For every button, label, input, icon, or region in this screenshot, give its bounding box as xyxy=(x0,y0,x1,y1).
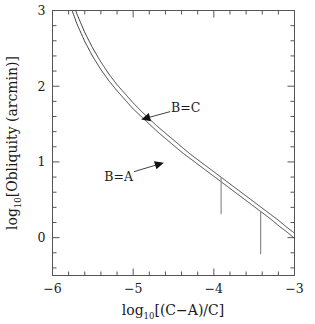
svg-text:log10[(C−A)/C]: log10[(C−A)/C] xyxy=(122,302,225,321)
y-tick-label: 0 xyxy=(38,230,46,245)
x-tick-label: −5 xyxy=(124,281,142,296)
obliquity-vs-triaxiality-chart: −6−5−4−30123 B=CB=A log10[(C−A)/C] log10… xyxy=(0,0,315,324)
xlabel-base: log xyxy=(122,302,144,318)
x-tick-label: −3 xyxy=(285,281,303,296)
y-tick-label: 1 xyxy=(38,154,46,169)
annotation-label-b-c: B=C xyxy=(171,100,200,115)
ylabel-rest: [Obliquity (arcmin)] xyxy=(4,56,20,197)
ylabel-subscript: 10 xyxy=(13,197,23,208)
y-tick-label: 2 xyxy=(38,79,46,94)
y-tick-label: 3 xyxy=(38,3,46,18)
xlabel-rest: [(C−A)/C] xyxy=(154,302,224,318)
xlabel-subscript: 10 xyxy=(144,311,155,321)
x-axis-title: log10[(C−A)/C] xyxy=(122,302,225,321)
x-tick-label: −6 xyxy=(43,281,61,296)
annotation-label-b-a: B=A xyxy=(104,169,134,184)
figure-container: −6−5−4−30123 B=CB=A log10[(C−A)/C] log10… xyxy=(0,0,315,324)
x-tick-label: −4 xyxy=(205,281,223,296)
ylabel-base: log xyxy=(4,208,20,230)
